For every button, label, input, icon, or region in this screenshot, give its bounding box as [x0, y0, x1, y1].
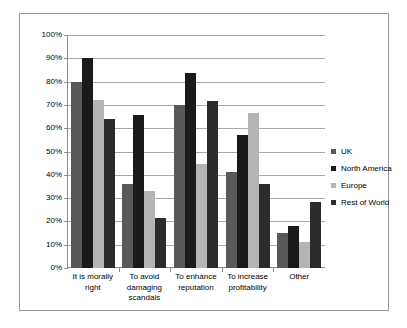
y-axis-tick-label: 90% [46, 54, 62, 62]
legend-item[interactable]: Europe [331, 179, 392, 192]
bar [196, 164, 207, 268]
bar [207, 101, 218, 268]
bar [226, 172, 237, 268]
y-axis-tick-label: 20% [46, 217, 62, 225]
bar [277, 233, 288, 268]
legend-item[interactable]: Rest of World [331, 196, 392, 209]
x-axis-tick [273, 268, 274, 272]
bar [122, 184, 133, 268]
bar [133, 115, 144, 268]
x-axis-tick-label: To avoiddamagingscandals [119, 272, 171, 304]
bar-group [277, 35, 321, 268]
chart-frame: 0%10%20%30%40%50%60%70%80%90%100% It is … [19, 13, 389, 311]
chart-legend: UKNorth AmericaEuropeRest of World [331, 145, 392, 213]
y-axis-tick-label: 100% [42, 31, 62, 39]
bar [299, 242, 310, 268]
bar-group [174, 35, 218, 268]
x-axis-tick [222, 268, 223, 272]
y-axis-tick-label: 70% [46, 101, 62, 109]
legend-swatch-icon [331, 183, 336, 188]
bar [288, 226, 299, 268]
bars-layer [67, 35, 325, 268]
y-axis-tick-label: 40% [46, 171, 62, 179]
legend-item[interactable]: North America [331, 162, 392, 175]
y-axis-tick [64, 268, 68, 269]
x-axis-tick-label: It is morallyright [67, 272, 119, 293]
bar [71, 82, 82, 268]
legend-swatch-icon [331, 166, 336, 171]
x-axis-tick-label-line: profitability [222, 283, 274, 294]
bar [248, 113, 259, 268]
bar-group [226, 35, 270, 268]
legend-label: North America [341, 165, 392, 173]
x-axis-tick-label-line: To increase [222, 272, 274, 283]
x-axis-tick-label-line: Other [273, 272, 325, 283]
bar [155, 218, 166, 268]
bar [174, 105, 185, 268]
y-axis-tick-label: 0% [50, 264, 62, 272]
y-axis-tick-label: 60% [46, 124, 62, 132]
x-axis-tick-label-line: right [67, 283, 119, 294]
chart-screenshot: 0%10%20%30%40%50%60%70%80%90%100% It is … [0, 0, 407, 328]
y-axis-tick-labels: 0%10%20%30%40%50%60%70%80%90%100% [20, 35, 62, 268]
legend-label: Rest of World [341, 199, 389, 207]
y-axis-tick-label: 30% [46, 194, 62, 202]
x-axis-tick-label-line: It is morally [67, 272, 119, 283]
x-axis-tick-label-line: damaging [119, 283, 171, 294]
x-axis-tick-label-line: To avoid [119, 272, 171, 283]
x-axis-tick-label-line: To enhance [170, 272, 222, 283]
legend-swatch-icon [331, 149, 336, 154]
bar [310, 202, 321, 268]
x-axis-tick [170, 268, 171, 272]
y-axis-tick-label: 50% [46, 148, 62, 156]
bar [82, 58, 93, 268]
x-axis-tick-label-line: scandals [119, 293, 171, 304]
legend-item[interactable]: UK [331, 145, 392, 158]
x-axis-tick-label-line: reputation [170, 283, 222, 294]
x-axis-tick-label: Other [273, 272, 325, 283]
bar [237, 135, 248, 268]
legend-label: UK [341, 148, 352, 156]
bar [93, 100, 104, 268]
bar-group [71, 35, 115, 268]
bar [185, 73, 196, 268]
bar [104, 119, 115, 268]
x-axis-tick-label: To enhancereputation [170, 272, 222, 293]
bar [259, 184, 270, 268]
y-axis-tick-label: 10% [46, 241, 62, 249]
y-axis-tick-label: 80% [46, 78, 62, 86]
legend-swatch-icon [331, 200, 336, 205]
legend-label: Europe [341, 182, 367, 190]
x-axis-tick [119, 268, 120, 272]
x-axis-tick-labels: It is morallyrightTo avoiddamagingscanda… [67, 272, 329, 318]
bar-group [122, 35, 166, 268]
x-axis-tick-label: To increaseprofitability [222, 272, 274, 293]
bar [144, 191, 155, 268]
